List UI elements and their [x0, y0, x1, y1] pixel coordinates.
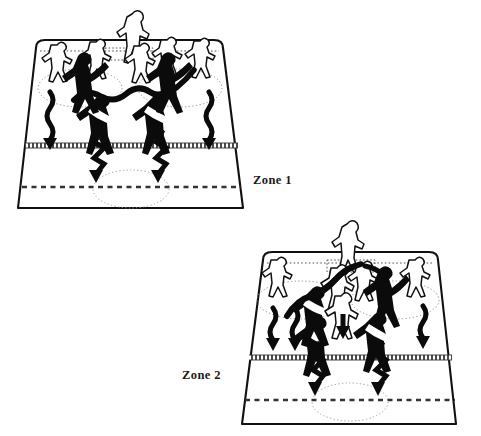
tactical-diagram-zone-1 [0, 0, 270, 220]
figure-canvas: Zone 1 [0, 0, 481, 436]
zone-2-label: Zone 2 [182, 368, 221, 383]
mid-hatched-line [249, 355, 452, 360]
zone-1-label: Zone 1 [253, 173, 292, 188]
tactical-diagram-zone-2 [215, 218, 481, 436]
